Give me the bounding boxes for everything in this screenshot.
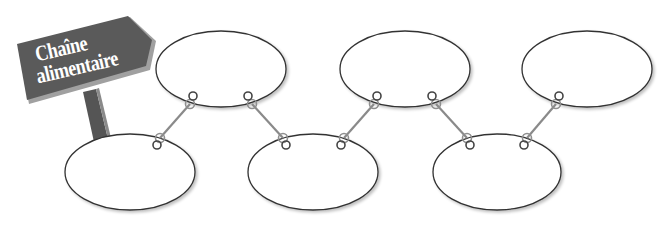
connector-rod [252,104,283,138]
food-chain-box-2[interactable] [156,31,286,107]
connector-rod [344,104,374,138]
food-chain-box-6[interactable] [522,31,652,107]
diagram-canvas [0,0,672,229]
food-chain-box-1[interactable] [65,134,195,210]
connector-rod [436,104,467,138]
food-chain-box-4[interactable] [340,31,470,107]
food-chain-box-5[interactable] [433,134,561,210]
food-chain-box-3[interactable] [248,134,378,210]
connector-rod [527,104,556,138]
food-chain-diagram: Chaîne alimentaire [0,0,672,229]
connector-rod [160,104,190,138]
